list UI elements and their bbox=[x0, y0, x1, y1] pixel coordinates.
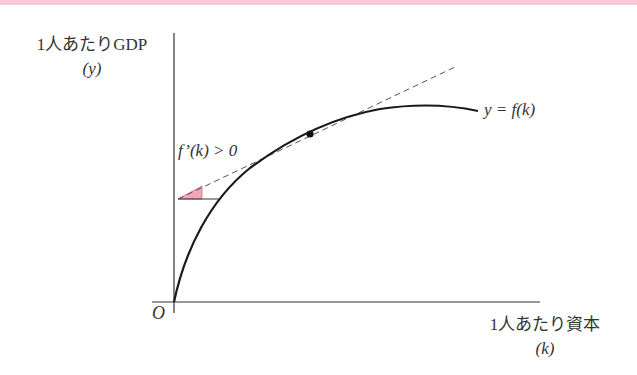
x-axis-symbol: (k) bbox=[470, 337, 620, 361]
x-axis-label: 1人あたり資本 (k) bbox=[470, 313, 620, 361]
origin-label: O bbox=[152, 303, 165, 324]
y-axis-title: 1人あたりGDP bbox=[12, 33, 172, 57]
x-axis-title: 1人あたり資本 bbox=[470, 313, 620, 337]
tangency-point bbox=[306, 130, 313, 137]
tangent-line bbox=[178, 67, 455, 199]
production-curve bbox=[174, 106, 478, 302]
curve-label: y = f(k) bbox=[484, 100, 535, 120]
y-axis-symbol: (y) bbox=[12, 57, 172, 81]
slope-label: f’(k) > 0 bbox=[178, 141, 237, 161]
y-axis-label: 1人あたりGDP (y) bbox=[12, 33, 172, 81]
